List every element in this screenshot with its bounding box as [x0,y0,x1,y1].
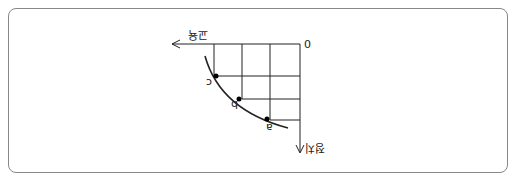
x-axis-label: 교육 [188,28,208,44]
origin-label: 0 [304,37,311,50]
point-a-label: a [266,121,273,134]
point-c-label: c [206,76,212,89]
diagram: 0 교육 정치 a b c [0,0,519,182]
point-b-label: b [231,98,238,111]
y-axis-label: 정치 [305,141,325,157]
ppf-chart [0,0,519,182]
